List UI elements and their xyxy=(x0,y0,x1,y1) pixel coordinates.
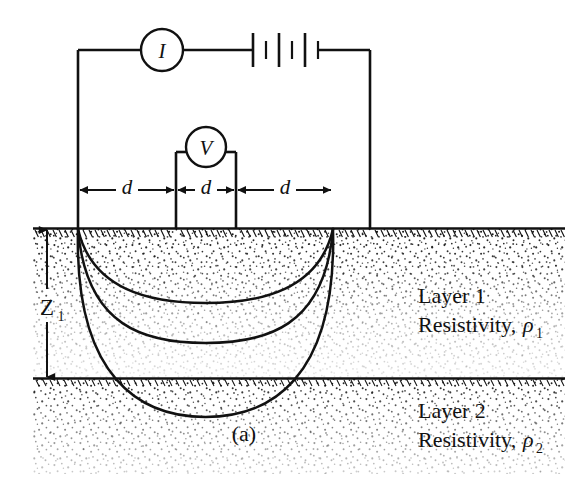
layer-2-resistivity-subscript: 2 xyxy=(536,441,543,456)
layer-1-name: Layer 1 xyxy=(418,283,486,308)
layer-2-name: Layer 2 xyxy=(418,398,486,423)
layer-2-resistivity-symbol: ρ xyxy=(522,427,534,452)
layer-1-resistivity-symbol: ρ xyxy=(522,312,534,337)
ammeter[interactable]: I xyxy=(141,29,183,71)
voltmeter-label: V xyxy=(200,136,215,160)
figure-caption: (a) xyxy=(232,421,256,446)
layer-1-resistivity-prefix: Resistivity, xyxy=(418,312,516,337)
layer-1-resistivity-subscript: 1 xyxy=(536,326,543,341)
spacing-label-2: d xyxy=(201,175,212,199)
depth-label-subscript: 1 xyxy=(58,309,65,324)
layer-2-soil xyxy=(33,378,565,474)
depth-label-base: Z xyxy=(40,295,54,320)
layer-2-resistivity-prefix: Resistivity, xyxy=(418,427,516,452)
voltmeter[interactable]: V xyxy=(186,127,226,167)
ammeter-label: I xyxy=(158,39,167,63)
spacing-label-1: d xyxy=(122,175,133,199)
resistivity-survey-figure: I V d d d Z 1 xyxy=(0,0,586,478)
spacing-label-3: d xyxy=(280,175,291,199)
